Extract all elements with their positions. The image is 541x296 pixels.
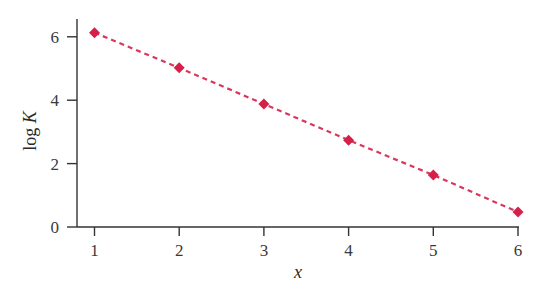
y-ticks: 0246 [51,28,78,237]
y-axis-label-log: log [20,123,40,151]
diamond-marker [258,99,269,110]
diamond-marker [174,62,185,73]
y-tick-label: 0 [51,218,60,237]
x-tick-label: 1 [90,241,99,260]
diamond-marker [513,207,524,218]
axes [77,19,519,227]
diamond-marker [428,170,439,181]
y-tick-label: 6 [51,28,60,47]
chart: 0246 123456 x log K [0,0,541,296]
x-tick-label: 5 [429,241,438,260]
x-tick-label: 3 [260,241,269,260]
x-ticks: 123456 [90,227,522,260]
y-tick-label: 4 [51,91,60,110]
data-series [89,27,524,217]
x-axis-label: x [293,262,302,282]
trend-line [95,33,519,212]
x-tick-label: 6 [514,241,523,260]
x-tick-label: 2 [175,241,184,260]
y-tick-label: 2 [51,155,60,174]
y-axis-label-k: K [20,110,40,124]
y-axis-label: log K [20,110,40,151]
diamond-marker [343,135,354,146]
diamond-marker [89,27,100,38]
x-tick-label: 4 [344,241,353,260]
